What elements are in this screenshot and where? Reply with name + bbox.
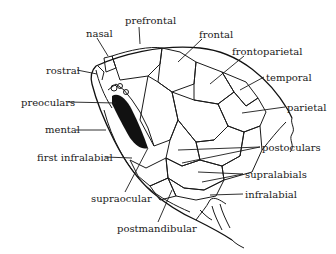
label-mental: mental bbox=[45, 124, 80, 135]
scale-diagram: prefrontal nasal rostral preoculars ment… bbox=[0, 0, 336, 254]
label-temporal: temporal bbox=[266, 72, 312, 83]
label-postoculars: postoculars bbox=[262, 142, 321, 153]
eye-region bbox=[108, 84, 154, 149]
label-postmandibular: postmandibular bbox=[117, 223, 197, 234]
label-frontoparietal: frontoparietal bbox=[232, 46, 302, 57]
label-infralabial: infralabial bbox=[245, 189, 297, 200]
label-first-infralabial: first infralabial bbox=[37, 152, 113, 163]
label-preoculars: preoculars bbox=[21, 97, 75, 108]
label-supraocular: supraocular bbox=[91, 193, 152, 204]
label-frontal: frontal bbox=[199, 29, 233, 40]
label-prefrontal: prefrontal bbox=[125, 15, 176, 26]
label-rostral: rostral bbox=[46, 65, 80, 76]
label-supralabials: supralabials bbox=[245, 169, 307, 180]
label-nasal: nasal bbox=[86, 28, 113, 39]
label-parietal: parietal bbox=[287, 102, 326, 113]
